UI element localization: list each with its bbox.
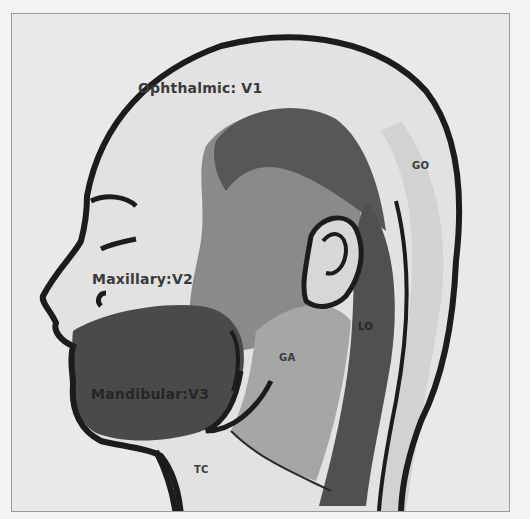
label-mandibular-v3: Mandibular:V3 (91, 386, 209, 402)
label-ga: GA (279, 352, 295, 363)
label-tc: TC (194, 464, 209, 475)
label-go: GO (412, 160, 429, 171)
figure-frame: Ophthalmic: V1 Maxillary:V2 Mandibular:V… (11, 13, 510, 512)
label-ophthalmic-v1: Ophthalmic: V1 (138, 80, 262, 96)
label-lo: LO (358, 321, 373, 332)
label-maxillary-v2: Maxillary:V2 (92, 271, 193, 287)
